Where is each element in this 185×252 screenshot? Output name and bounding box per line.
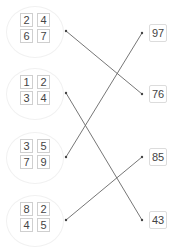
line-group1-to-76 xyxy=(66,31,142,94)
digit-cell: 6 xyxy=(20,29,33,43)
right-dot-4[interactable] xyxy=(141,219,143,221)
digit-cell: 2 xyxy=(37,75,50,89)
digit-cell: 1 xyxy=(20,75,33,89)
digit-cell: 4 xyxy=(37,13,50,27)
group-outline xyxy=(6,68,64,120)
group-outline xyxy=(6,195,64,247)
line-group4-to-85 xyxy=(66,157,142,220)
digit-cell: 7 xyxy=(20,155,33,169)
value-box-3: 85 xyxy=(149,148,167,166)
digit-cell: 8 xyxy=(20,202,33,216)
group-caption xyxy=(18,60,52,66)
digit-cell: 3 xyxy=(20,91,33,105)
left-group-4: 8 2 4 5 xyxy=(6,195,64,247)
digit-cell: 3 xyxy=(20,139,33,153)
group-outline xyxy=(6,132,64,184)
group-caption xyxy=(18,0,52,4)
right-dot-2[interactable] xyxy=(141,93,143,95)
group-caption xyxy=(18,187,52,193)
digit-cell: 9 xyxy=(37,155,50,169)
value-box-1: 97 xyxy=(149,24,167,42)
right-dot-3[interactable] xyxy=(141,156,143,158)
group-outline xyxy=(6,6,64,58)
left-group-3: 3 5 7 9 xyxy=(6,132,64,184)
digit-cell: 5 xyxy=(37,218,50,232)
group-caption xyxy=(18,124,52,130)
left-dot-4[interactable] xyxy=(65,219,67,221)
digit-cell: 2 xyxy=(37,202,50,216)
left-group-2: 1 2 3 4 xyxy=(6,68,64,120)
digit-cell: 5 xyxy=(37,139,50,153)
line-group3-to-97 xyxy=(66,33,142,157)
right-dot-1[interactable] xyxy=(141,32,143,34)
left-dot-3[interactable] xyxy=(65,156,67,158)
left-group-1: 2 4 6 7 xyxy=(6,6,64,58)
digit-cell: 2 xyxy=(20,13,33,27)
digit-cell: 4 xyxy=(20,218,33,232)
value-box-4: 43 xyxy=(149,211,167,229)
digit-cell: 4 xyxy=(37,91,50,105)
left-dot-2[interactable] xyxy=(65,92,67,94)
value-box-2: 76 xyxy=(149,85,167,103)
left-dot-1[interactable] xyxy=(65,30,67,32)
digit-cell: 7 xyxy=(37,29,50,43)
line-group2-to-43 xyxy=(66,93,142,220)
